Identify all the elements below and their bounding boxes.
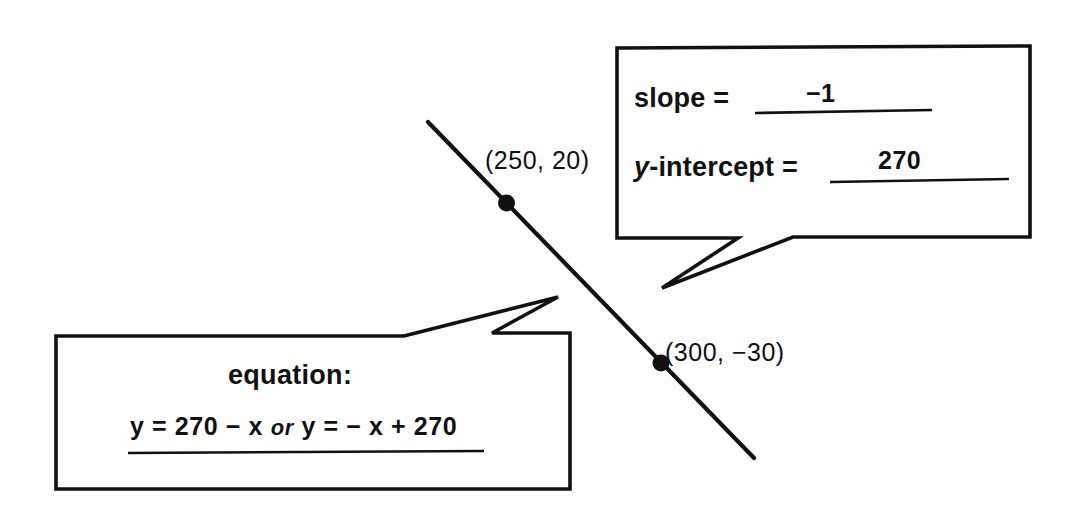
equation-answer-value[interactable]: y = 270 − x or y = − x + 270 (130, 412, 457, 441)
equation-bubble-outline (56, 297, 570, 489)
equation-conjunction: or (271, 415, 294, 440)
yintercept-field-label: y-intercept = (634, 152, 798, 183)
equation-second-form: y = − x + 270 (294, 412, 457, 440)
data-point-250-20 (498, 195, 515, 212)
worksheet-canvas: (250, 20) (300, −30) slope = −1 y-interc… (0, 0, 1085, 527)
point-label-300-minus30: (300, −30) (665, 338, 785, 367)
diagram-artwork (0, 0, 1085, 527)
equation-first-form: y = 270 − x (130, 412, 271, 440)
yintercept-variable: y (634, 152, 649, 182)
yintercept-answer-value[interactable]: 270 (878, 146, 921, 175)
equation-caption: equation: (228, 360, 352, 391)
point-label-250-20: (250, 20) (485, 146, 590, 175)
yintercept-label-text: -intercept = (649, 152, 798, 182)
slope-field-label: slope = (634, 83, 729, 114)
slope-answer-value[interactable]: −1 (806, 79, 836, 108)
